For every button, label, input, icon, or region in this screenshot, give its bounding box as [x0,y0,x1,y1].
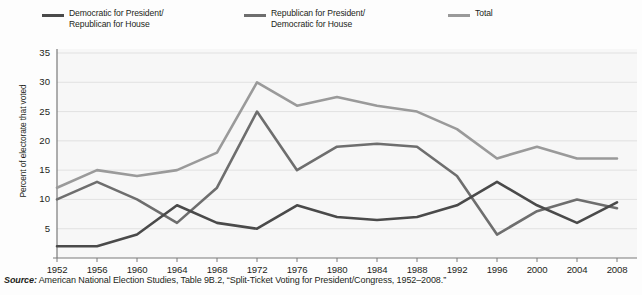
legend-item-democratic-president-republican-house: Democratic for President/ Republican for… [42,8,163,30]
legend-swatch-democratic-president-republican-house [42,14,64,17]
plot-background [57,49,637,258]
legend-item-total: Total [448,8,493,19]
legend-swatch-total [448,14,470,17]
plot-area: Percent of electorate that voted 5101520… [0,44,642,269]
source-text: American National Election Studies, Tabl… [37,275,446,285]
chart-legend: Democratic for President/ Republican for… [0,8,642,42]
source-note: Source: American National Election Studi… [4,274,638,286]
legend-swatch-republican-president-democratic-house [244,14,266,17]
legend-item-republican-president-democratic-house: Republican for President/ Democratic for… [244,8,365,30]
chart-figure: Democratic for President/ Republican for… [0,0,642,295]
chart-svg [0,44,642,269]
legend-label-democratic-president-republican-house: Democratic for President/ Republican for… [69,8,163,30]
source-label: Source: [4,275,37,285]
legend-label-total: Total [475,8,493,19]
legend-label-republican-president-democratic-house: Republican for President/ Democratic for… [271,8,365,30]
